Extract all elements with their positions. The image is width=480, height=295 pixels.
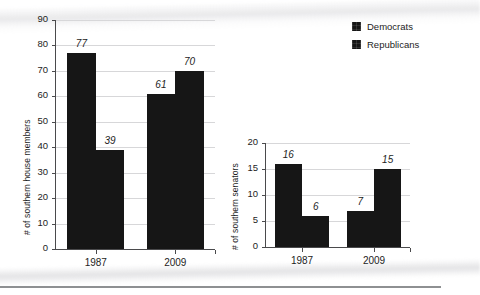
x-axis-line <box>55 249 215 250</box>
bar-value-label-republicans-2009: 70 <box>165 56 214 67</box>
x-axis-end-tick-mark <box>215 250 216 254</box>
chart-southern-senators: # of southern senators 05101520166198771… <box>220 0 441 295</box>
y-axis-line <box>55 20 56 250</box>
y-axis-tick-label: 50 <box>20 115 48 126</box>
chart-senate-plot-area: 0510152016619877152009 <box>266 143 410 247</box>
y-axis-tick-label: 10 <box>20 217 48 228</box>
gridline <box>266 143 410 144</box>
y-axis-tick-label: 30 <box>20 166 48 177</box>
bar-republicans-2009 <box>175 71 204 249</box>
x-axis-tick-label-2009: 2009 <box>344 255 404 266</box>
bar-value-label-democrats-1987: 16 <box>265 149 312 160</box>
y-axis-tick-label: 20 <box>20 191 48 202</box>
y-axis-tick-label: 0 <box>230 240 258 251</box>
y-axis-tick-label: 60 <box>20 89 48 100</box>
bar-value-label-democrats-1987: 77 <box>57 38 106 49</box>
bar-democrats-2009 <box>147 94 176 249</box>
x-axis-line <box>265 247 410 248</box>
x-axis-tick-label-2009: 2009 <box>145 257 205 268</box>
bar-republicans-1987 <box>302 216 329 247</box>
bar-democrats-2009 <box>347 211 374 247</box>
y-axis-tick-label: 90 <box>20 13 48 24</box>
y-axis-tick-label: 5 <box>230 214 258 225</box>
x-axis-tick-mark <box>175 250 176 254</box>
bar-democrats-1987 <box>67 53 96 249</box>
y-axis-tick-label: 10 <box>230 188 258 199</box>
bar-value-label-republicans-2009: 15 <box>364 154 411 165</box>
bar-republicans-1987 <box>96 150 125 249</box>
bar-value-label-republicans-1987: 39 <box>86 135 135 146</box>
bar-value-label-republicans-1987: 6 <box>292 201 339 212</box>
chart-senate-y-axis-title: # of southern senators <box>230 163 240 250</box>
x-axis-tick-label-1987: 1987 <box>272 255 332 266</box>
chart-house-plot-area: 01020304050607080907739198761702009 <box>56 20 215 249</box>
y-axis-tick-label: 80 <box>20 38 48 49</box>
x-axis-end-tick-mark <box>410 248 411 252</box>
x-axis-tick-mark <box>374 248 375 252</box>
bar-republicans-2009 <box>374 169 401 247</box>
chart-southern-house-members: # of southern house members 010203040506… <box>0 0 220 295</box>
y-axis-tick-label: 15 <box>230 162 258 173</box>
x-axis-tick-mark <box>302 248 303 252</box>
y-axis-tick-label: 40 <box>20 140 48 151</box>
x-axis-tick-mark <box>96 250 97 254</box>
gridline <box>56 20 215 21</box>
y-axis-tick-label: 20 <box>230 136 258 147</box>
x-axis-tick-label-1987: 1987 <box>66 257 126 268</box>
y-axis-tick-label: 70 <box>20 64 48 75</box>
y-axis-tick-label: 0 <box>20 242 48 253</box>
